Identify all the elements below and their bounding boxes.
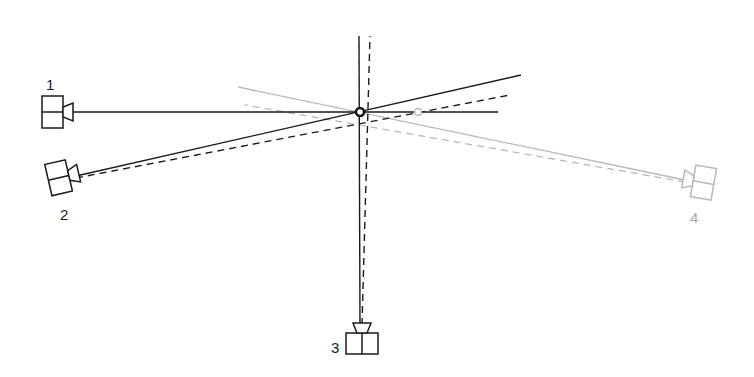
camera-3-dashed-ray (362, 36, 370, 325)
camera-3-solid-ray (359, 36, 360, 325)
camera-3-icon (346, 323, 378, 354)
camera-4-dashed-ray (245, 105, 685, 182)
triangulation-diagram: 1 2 3 4 (0, 0, 754, 377)
camera-1-icon (42, 96, 73, 128)
camera-2-label: 2 (60, 206, 68, 223)
camera-2-dashed-ray (76, 95, 510, 178)
intersection-point-marker (356, 108, 364, 116)
camera-3-label: 3 (331, 339, 339, 356)
camera-4-icon (680, 163, 716, 200)
camera-2-solid-ray (76, 75, 521, 176)
camera-4-label: 4 (690, 209, 698, 226)
camera-2-rays (76, 75, 521, 178)
projected-point-marker (415, 109, 422, 116)
camera-3-rays (359, 36, 370, 325)
camera-2-icon (45, 158, 82, 196)
camera-1-label: 1 (46, 76, 54, 93)
